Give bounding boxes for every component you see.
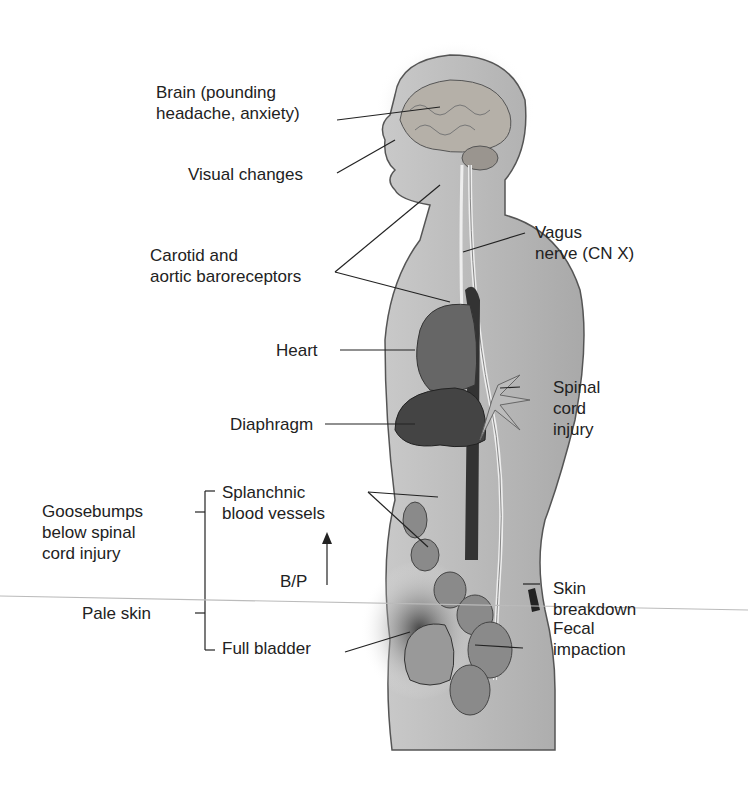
label-visual-changes: Visual changes [188, 164, 303, 185]
label-splanchnic-vessels: Splanchnic blood vessels [222, 482, 325, 524]
label-full-bladder: Full bladder [222, 638, 311, 659]
label-diaphragm: Diaphragm [230, 414, 313, 435]
label-goosebumps: Goosebumps below spinal cord injury [42, 501, 143, 564]
label-baroreceptors: Carotid and aortic baroreceptors [150, 245, 301, 287]
label-brain: Brain (pounding headache, anxiety) [156, 82, 300, 124]
label-bp: B/P [280, 571, 307, 592]
bp-up-arrow-icon [322, 532, 332, 544]
label-fecal-impaction: Fecal impaction [553, 618, 626, 660]
label-skin-breakdown: Skin breakdown [553, 578, 636, 620]
label-pale-skin: Pale skin [82, 603, 151, 624]
anatomy-figure [0, 0, 748, 787]
label-vagus-nerve: Vagus nerve (CN X) [535, 222, 634, 264]
label-heart: Heart [276, 340, 318, 361]
label-spinal-cord-injury: Spinal cord injury [553, 377, 600, 440]
